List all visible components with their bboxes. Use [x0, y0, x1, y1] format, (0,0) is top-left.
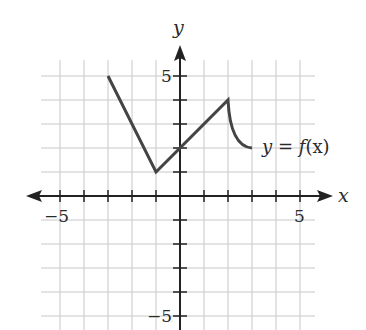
x-axis-label: x	[338, 184, 349, 206]
x-tick-label-pos5: 5	[294, 206, 305, 226]
y-axis-label: y	[172, 16, 184, 38]
function-label: y = f(x)	[261, 136, 330, 157]
x-tick-label-neg5: −5	[44, 206, 69, 226]
y-tick-label-neg5: −5	[147, 306, 172, 326]
y-tick-label-pos5: 5	[161, 66, 172, 86]
function-graph: y x −5 5 5 −5 y = f(x)	[0, 0, 366, 330]
y-axis	[173, 45, 187, 330]
